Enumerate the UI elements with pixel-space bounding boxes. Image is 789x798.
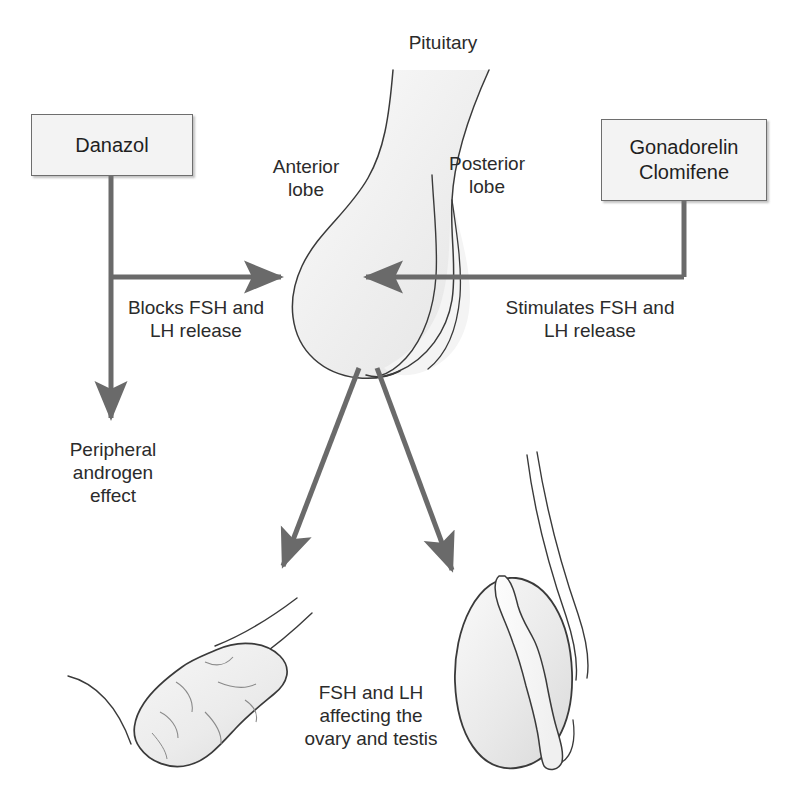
blocks-fsh-lh-label: Blocks FSH and LH release <box>128 296 264 342</box>
drug-box-danazol[interactable]: Danazol <box>31 114 193 176</box>
anterior-lobe-label: Anterior lobe <box>273 155 340 201</box>
testis <box>455 452 588 769</box>
stimulates-fsh-lh-label: Stimulates FSH and LH release <box>506 296 675 342</box>
drug-box-danazol-label: Danazol <box>75 133 148 158</box>
peripheral-androgen-effect-label: Peripheral androgen effect <box>70 438 157 507</box>
pituitary-to-testis-arrow <box>377 368 452 570</box>
pituitary-label: Pituitary <box>409 31 478 54</box>
fsh-lh-gonads-label: FSH and LH affecting the ovary and testi… <box>304 681 437 750</box>
drug-box-gonadorelin-clomifene-label: Gonadorelin Clomifene <box>602 135 766 185</box>
diagram-canvas: Danazol Gonadorelin Clomifene Pituitary … <box>0 0 789 798</box>
posterior-lobe-label: Posterior lobe <box>449 152 525 198</box>
ovary <box>68 598 312 766</box>
pituitary-gland <box>292 70 489 378</box>
pituitary-to-ovary-arrow <box>283 368 359 566</box>
drug-box-gonadorelin-clomifene[interactable]: Gonadorelin Clomifene <box>601 119 767 201</box>
